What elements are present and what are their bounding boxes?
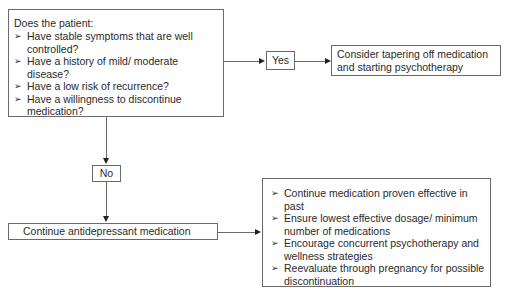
arrow-right-icon bbox=[255, 229, 261, 235]
arrow-bullet-icon: ➢ bbox=[14, 55, 22, 68]
arrow-down-icon bbox=[103, 158, 109, 164]
arrow-bullet-icon: ➢ bbox=[271, 237, 279, 250]
recommendations-box: ➢Continue medication proven effective in… bbox=[262, 178, 491, 287]
arrow-bullet-icon: ➢ bbox=[14, 80, 22, 93]
no-label-box: No bbox=[92, 165, 121, 182]
question-box: Does the patient: ➢Have stable symptoms … bbox=[8, 9, 224, 117]
yes-label-box: Yes bbox=[266, 51, 295, 70]
connector-line bbox=[295, 61, 326, 62]
yes-label: Yes bbox=[272, 54, 289, 66]
recommendation-item: ➢Encourage concurrent psychotherapy and … bbox=[271, 237, 486, 262]
recommendations-list: ➢Continue medication proven effective in… bbox=[271, 187, 486, 287]
arrow-down-icon bbox=[103, 216, 109, 222]
question-item: ➢Have a willingness to discontinue medic… bbox=[14, 93, 218, 118]
yes-outcome-box: Consider tapering off medication and sta… bbox=[331, 45, 501, 76]
arrow-bullet-icon: ➢ bbox=[14, 93, 22, 106]
connector-line bbox=[218, 232, 256, 233]
arrow-bullet-icon: ➢ bbox=[14, 30, 22, 43]
question-item: ➢Have stable symptoms that are well cont… bbox=[14, 30, 218, 55]
arrow-right-icon bbox=[259, 58, 265, 64]
arrow-bullet-icon: ➢ bbox=[271, 187, 279, 200]
recommendation-item: ➢Ensure lowest effective dosage/ minimum… bbox=[271, 212, 486, 237]
no-outcome-box: Continue antidepressant medication bbox=[8, 223, 218, 240]
recommendation-item: ➢Continue medication proven effective in… bbox=[271, 187, 486, 212]
arrow-bullet-icon: ➢ bbox=[271, 262, 279, 275]
question-list: ➢Have stable symptoms that are well cont… bbox=[14, 30, 218, 118]
question-heading: Does the patient: bbox=[14, 17, 218, 30]
connector-line bbox=[106, 117, 107, 159]
no-outcome-text: Continue antidepressant medication bbox=[23, 225, 191, 237]
arrow-bullet-icon: ➢ bbox=[271, 212, 279, 225]
yes-outcome-text: Consider tapering off medication and sta… bbox=[337, 48, 488, 73]
connector-line bbox=[224, 61, 261, 62]
question-item: ➢Have a history of mild/ moderate diseas… bbox=[14, 55, 218, 80]
question-item: ➢Have a low risk of recurrence? bbox=[14, 80, 218, 93]
recommendation-item: ➢Reevaluate through pregnancy for possib… bbox=[271, 262, 486, 287]
connector-line bbox=[106, 182, 107, 217]
no-label: No bbox=[100, 167, 113, 179]
